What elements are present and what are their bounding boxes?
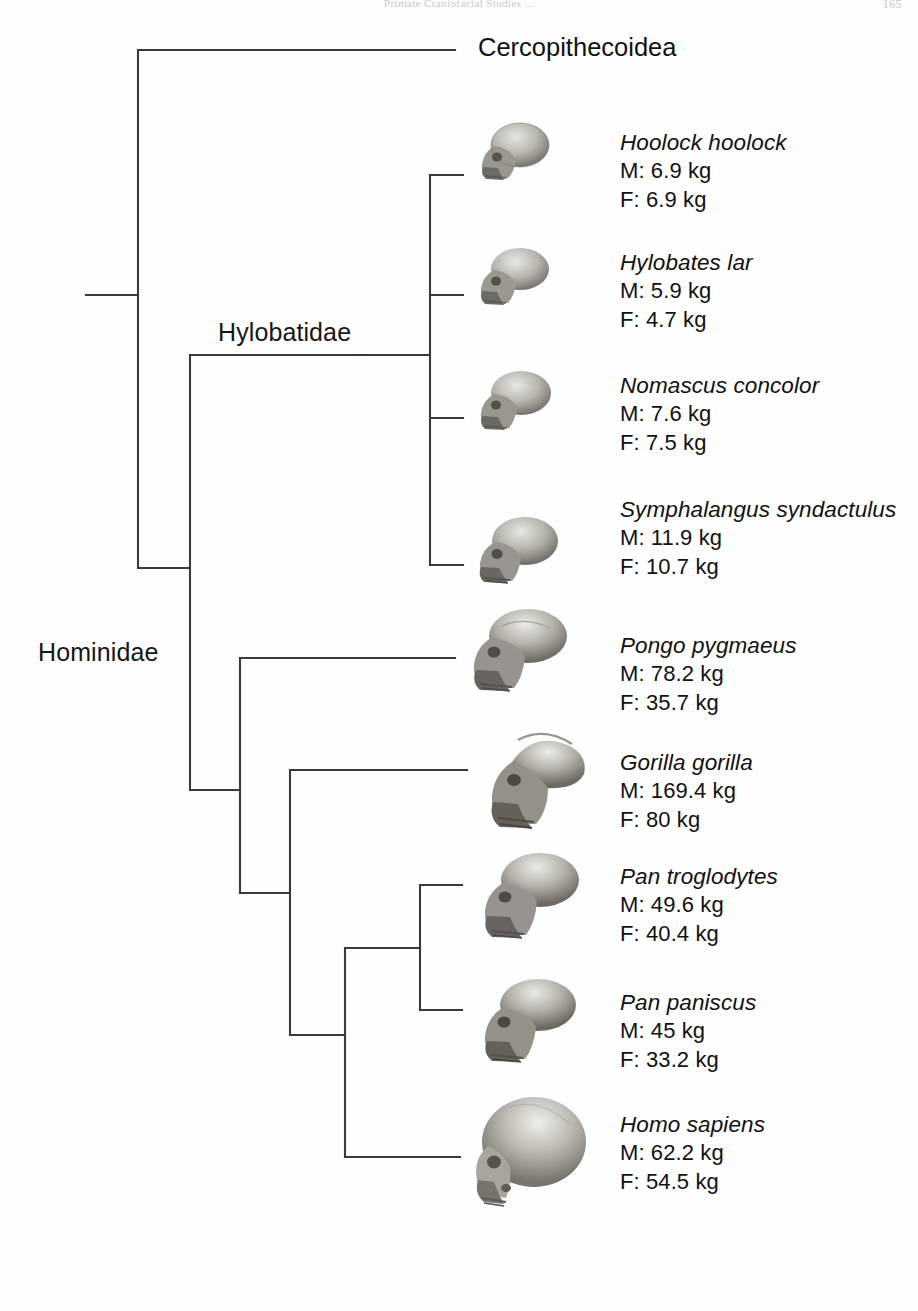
taxon-male-mass: M: 11.9 kg <box>620 524 896 553</box>
clade-label-hominidae: Hominidae <box>38 638 158 667</box>
taxon-label-pan-troglodytes: Pan troglodytes M: 49.6 kg F: 40.4 kg <box>620 862 778 948</box>
clade-label-hylobatidae: Hylobatidae <box>218 318 351 347</box>
skull-image-pongo-pygmaeus <box>462 596 580 714</box>
taxon-label-pongo-pygmaeus: Pongo pygmaeus M: 78.2 kg F: 35.7 kg <box>620 631 797 717</box>
taxon-male-mass: M: 6.9 kg <box>620 157 787 186</box>
taxon-female-mass: F: 40.4 kg <box>620 920 778 949</box>
taxon-label-homo-sapiens: Homo sapiens M: 62.2 kg F: 54.5 kg <box>620 1110 765 1196</box>
taxon-label-symphalangus-syndactulus: Symphalangus syndactulus M: 11.9 kg F: 1… <box>620 495 896 581</box>
taxon-male-mass: M: 49.6 kg <box>620 891 778 920</box>
taxon-female-mass: F: 6.9 kg <box>620 186 787 215</box>
taxon-label-hylobates-lar: Hylobates lar M: 5.9 kg F: 4.7 kg <box>620 248 753 334</box>
taxon-label-nomascus-concolor: Nomascus concolor M: 7.6 kg F: 7.5 kg <box>620 371 819 457</box>
taxon-name: Nomascus concolor <box>620 371 819 400</box>
taxon-male-mass: M: 5.9 kg <box>620 277 753 306</box>
skull-image-pan-paniscus <box>472 966 590 1084</box>
taxon-name: Pongo pygmaeus <box>620 631 797 660</box>
outgroup-label-cercopithecoidea: Cercopithecoidea <box>478 33 676 62</box>
skull-image-pan-troglodytes <box>472 840 592 960</box>
taxon-female-mass: F: 4.7 kg <box>620 306 753 335</box>
taxon-name: Homo sapiens <box>620 1110 765 1139</box>
taxon-name: Hoolock hoolock <box>620 128 787 157</box>
taxon-female-mass: F: 54.5 kg <box>620 1168 765 1197</box>
taxon-name: Hylobates lar <box>620 248 753 277</box>
taxon-female-mass: F: 33.2 kg <box>620 1046 756 1075</box>
taxon-male-mass: M: 7.6 kg <box>620 400 819 429</box>
skull-image-nomascus-concolor <box>470 360 560 450</box>
taxon-male-mass: M: 45 kg <box>620 1017 756 1046</box>
taxon-female-mass: F: 80 kg <box>620 806 753 835</box>
page-number: 165 <box>883 0 902 12</box>
taxon-female-mass: F: 10.7 kg <box>620 553 896 582</box>
skull-image-symphalangus-syndactulus <box>468 505 568 605</box>
running-head: Primate Craniofacial Studies ... 165 <box>0 0 918 13</box>
taxon-label-pan-paniscus: Pan paniscus M: 45 kg F: 33.2 kg <box>620 988 756 1074</box>
skull-image-gorilla-gorilla <box>478 718 608 848</box>
taxon-name: Gorilla gorilla <box>620 748 753 777</box>
skull-image-homo-sapiens <box>462 1086 604 1236</box>
skull-image-hoolock-hoolock <box>470 112 558 200</box>
taxon-label-hoolock-hoolock: Hoolock hoolock M: 6.9 kg F: 6.9 kg <box>620 128 787 214</box>
skull-image-hylobates-lar <box>470 237 558 325</box>
taxon-female-mass: F: 35.7 kg <box>620 689 797 718</box>
taxon-name: Symphalangus syndactulus <box>620 495 896 524</box>
taxon-label-gorilla-gorilla: Gorilla gorilla M: 169.4 kg F: 80 kg <box>620 748 753 834</box>
running-head-title: Primate Craniofacial Studies ... <box>384 0 534 9</box>
taxon-male-mass: M: 78.2 kg <box>620 660 797 689</box>
taxon-female-mass: F: 7.5 kg <box>620 429 819 458</box>
taxon-male-mass: M: 62.2 kg <box>620 1139 765 1168</box>
taxon-male-mass: M: 169.4 kg <box>620 777 753 806</box>
taxon-name: Pan paniscus <box>620 988 756 1017</box>
taxon-name: Pan troglodytes <box>620 862 778 891</box>
figure-page: Primate Craniofacial Studies ... 165 <box>0 0 918 1311</box>
